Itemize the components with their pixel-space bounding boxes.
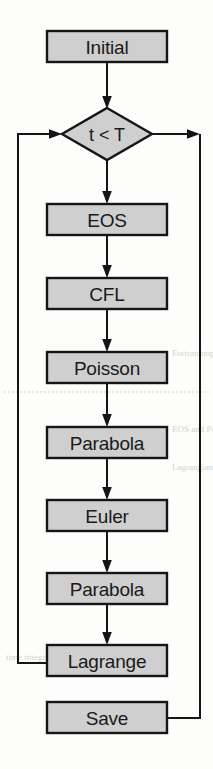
node-euler-label: Euler [85, 506, 129, 527]
edge-parabola1-to-euler [102, 458, 112, 500]
node-save-label: Save [86, 708, 129, 729]
node-save[interactable]: Save [47, 702, 167, 733]
flowchart-canvas: Fortran implementation EOS and Poisson s… [0, 0, 213, 769]
edge-euler-to-parabola2 [102, 531, 112, 573]
node-parabola-2-label: Parabola [70, 579, 145, 600]
node-parabola-1-label: Parabola [70, 433, 145, 454]
edge-condition-to-eos [102, 160, 112, 204]
node-cfl-label: CFL [89, 284, 124, 305]
bleed-text-2: Lagrangian remap step [172, 462, 213, 472]
node-parabola-1[interactable]: Parabola [47, 427, 167, 458]
node-poisson-label: Poisson [74, 358, 140, 379]
arrowhead-down-icon [102, 265, 112, 278]
edge-eos-to-cfl [102, 235, 112, 278]
arrowhead-down-icon [102, 632, 112, 645]
arrowhead-down-icon [102, 414, 112, 427]
bleed-text-0: Fortran implementation [172, 348, 213, 358]
node-lagrange[interactable]: Lagrange [47, 645, 167, 676]
edge-poisson-to-parabola1 [102, 383, 112, 427]
edge-initial-to-condition [102, 62, 112, 109]
node-initial[interactable]: Initial [47, 31, 167, 62]
edge-layer [18, 62, 200, 718]
node-euler[interactable]: Euler [47, 500, 167, 531]
arrowhead-down-icon [102, 487, 112, 500]
node-poisson[interactable]: Poisson [47, 352, 167, 383]
node-lagrange-label: Lagrange [68, 651, 147, 672]
node-condition[interactable]: t < T [62, 108, 152, 160]
arrowhead-down-icon [102, 191, 112, 204]
edge-parabola2-to-lagrange [102, 604, 112, 645]
arrowhead-right-icon [187, 129, 200, 139]
arrowhead-down-icon [102, 339, 112, 352]
edge-cfl-to-poisson [102, 309, 112, 352]
flowchart-diagram: Fortran implementation EOS and Poisson s… [0, 0, 213, 769]
node-eos[interactable]: EOS [47, 204, 167, 235]
node-initial-label: Initial [86, 37, 129, 58]
bleed-text-1: EOS and Poisson solvers [172, 424, 213, 434]
arrowhead-down-icon [102, 560, 112, 573]
node-cfl[interactable]: CFL [47, 278, 167, 309]
node-eos-label: EOS [87, 210, 127, 231]
node-condition-label: t < T [89, 125, 125, 145]
node-parabola-2[interactable]: Parabola [47, 573, 167, 604]
